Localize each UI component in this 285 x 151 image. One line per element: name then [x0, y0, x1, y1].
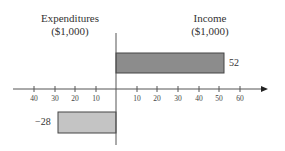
x-axis-arrow-icon [261, 86, 268, 92]
tick-label: 10 [86, 94, 106, 103]
tick-label: 20 [147, 94, 167, 103]
income-expenditure-chart: Expenditures ($1,000) Income ($1,000) [0, 0, 285, 151]
income-value-label: 52 [229, 57, 239, 68]
tick-label: 40 [189, 94, 209, 103]
income-bar [116, 53, 224, 73]
tick-label: 40 [24, 94, 44, 103]
tick-label: 50 [209, 94, 229, 103]
tick-label: 20 [65, 94, 85, 103]
expenditures-bar [58, 112, 116, 133]
tick-label: 30 [168, 94, 188, 103]
expenditures-value-label: −28 [35, 116, 51, 127]
chart-plot [0, 0, 285, 151]
tick-label: 10 [127, 94, 147, 103]
tick-label: 60 [230, 94, 250, 103]
tick-label: 30 [45, 94, 65, 103]
